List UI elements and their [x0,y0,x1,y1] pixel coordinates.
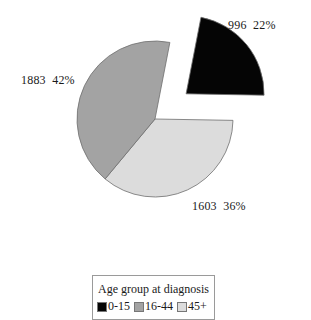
slice-label-45-plus: 1603 36% [192,199,246,214]
legend-label-16-44: 16-44 [145,299,173,314]
legend: Age group at diagnosis 0-15 16-44 45+ [92,275,215,320]
legend-items: 0-15 16-44 45+ [97,299,211,314]
slice-label-16-44: 1883 42% [21,73,75,88]
slice-label-0-15: 996 22% [228,18,276,33]
legend-swatch-0-15 [97,302,107,312]
legend-item-16-44: 16-44 [134,299,173,314]
legend-title: Age group at diagnosis [93,282,214,297]
legend-item-45-plus: 45+ [177,299,207,314]
legend-swatch-16-44 [134,302,144,312]
legend-item-0-15: 0-15 [97,299,130,314]
legend-label-45-plus: 45+ [188,299,207,314]
legend-swatch-45-plus [177,302,187,312]
pie-chart [0,0,311,260]
legend-label-0-15: 0-15 [108,299,130,314]
